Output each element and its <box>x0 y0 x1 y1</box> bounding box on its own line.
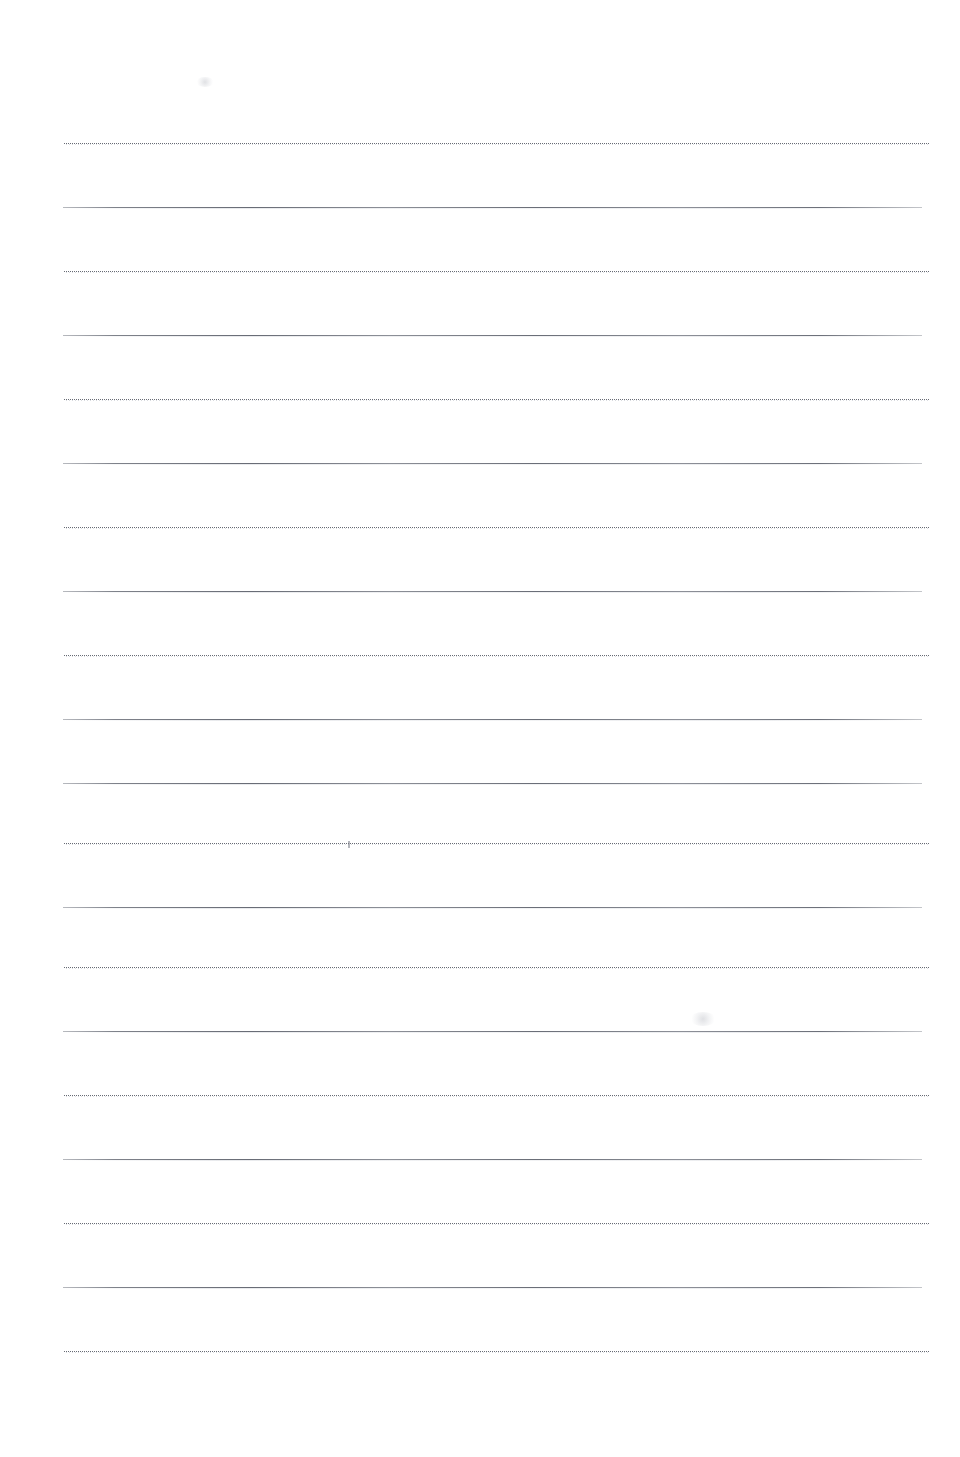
paper-page <box>0 0 960 1457</box>
writing-area[interactable] <box>63 143 930 1358</box>
smudge-artifact-3 <box>196 77 214 87</box>
